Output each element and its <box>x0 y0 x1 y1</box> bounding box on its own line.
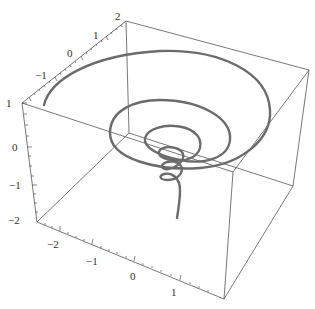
tick-label: 0 <box>67 47 73 59</box>
spiral-curve <box>44 51 270 218</box>
tick-label: 1 <box>171 286 177 298</box>
box-edge-back-vertical <box>126 21 129 133</box>
box-edge-front-vertical <box>224 172 233 299</box>
bottom-axis-ticks <box>45 223 208 292</box>
tick-label: 2 <box>115 10 121 22</box>
tick-label: −1 <box>9 179 21 191</box>
box-edge-bottom-front <box>37 222 224 299</box>
tick-label: 1 <box>93 29 99 41</box>
tick-label: 1 <box>6 97 12 109</box>
box-edge-top-right <box>233 70 309 172</box>
top-axis-ticks <box>29 25 122 101</box>
tick-label: −1 <box>86 255 98 267</box>
tick-label: 0 <box>12 141 18 153</box>
tick-label: −2 <box>47 238 59 250</box>
3d-plot: 2 1 0 −1 1 0 −1 −2 −2 −1 0 1 <box>0 0 315 309</box>
box-edge-top-left <box>22 21 126 103</box>
box-edge-top-back <box>126 21 309 70</box>
box-edge-bottom-right <box>224 186 293 299</box>
tick-label: −1 <box>35 69 47 81</box>
tick-label: 0 <box>130 270 136 282</box>
box-edge-left-vertical <box>22 103 37 222</box>
plot-canvas: 2 1 0 −1 1 0 −1 −2 −2 −1 0 1 <box>0 0 315 309</box>
left-axis-labels: 1 0 −1 −2 <box>6 97 21 226</box>
tick-label: −2 <box>8 214 20 226</box>
bottom-axis-labels: −2 −1 0 1 <box>47 238 177 298</box>
bounding-box <box>22 21 309 299</box>
box-edge-right-vertical <box>293 70 309 186</box>
